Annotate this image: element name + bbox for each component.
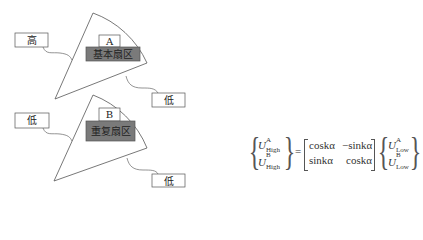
sector-a-left-port: 高 bbox=[27, 34, 37, 46]
sector-a-right-port: 低 bbox=[164, 94, 174, 106]
rhs-bot-var: U bbox=[388, 156, 396, 168]
sector-a-label: A bbox=[105, 36, 114, 47]
left-brace-close: } bbox=[284, 132, 296, 172]
matrix-bracket-left bbox=[304, 139, 308, 171]
lhs-top-sup: A bbox=[266, 136, 271, 144]
lhs-bot-var: U bbox=[258, 156, 266, 168]
matrix-bracket-right bbox=[371, 139, 375, 171]
rhs-bot-sup: B bbox=[396, 151, 401, 159]
connector-a-right bbox=[126, 76, 158, 93]
rotation-formula: { UHigh UHigh A B } = coskα −sinkα sinkα… bbox=[248, 134, 418, 176]
right-brace-close: } bbox=[410, 132, 422, 172]
matrix: coskα −sinkα sinkα coskα bbox=[309, 138, 369, 168]
sector-b-label: B bbox=[106, 109, 113, 120]
lhs-top-var: U bbox=[258, 139, 266, 151]
matrix-m12: −sinkα bbox=[342, 138, 372, 153]
equals-sign: = bbox=[295, 145, 301, 157]
connector-b-right bbox=[127, 158, 158, 174]
matrix-m11: coskα bbox=[309, 138, 335, 153]
rhs-top-var: U bbox=[388, 139, 396, 151]
matrix-m22: coskα bbox=[346, 153, 372, 168]
sector-b-right-port: 低 bbox=[164, 175, 174, 187]
matrix-m21: sinkα bbox=[309, 153, 333, 168]
sector-a-region-label: 基本扇区 bbox=[93, 48, 133, 60]
rhs-bot-sub: Low bbox=[396, 163, 409, 171]
sector-b-region-label: 重复扇区 bbox=[91, 125, 131, 137]
lhs-bot-sup: B bbox=[266, 151, 271, 159]
connector-b-left bbox=[43, 128, 72, 141]
rhs-top-sup: A bbox=[396, 136, 401, 144]
connector-a-left bbox=[43, 47, 72, 60]
lhs-bot-sub: High bbox=[266, 163, 280, 171]
sector-b-left-port: 低 bbox=[27, 114, 37, 126]
